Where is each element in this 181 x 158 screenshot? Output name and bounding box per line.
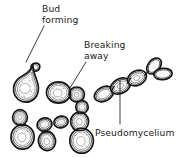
- cell-group-breaking-away-pair: [47, 82, 85, 103]
- cell-group-small-cluster-center: [35, 115, 69, 152]
- cell-granule: [75, 135, 76, 136]
- cell-granule: [16, 131, 17, 132]
- small-daughter-nucleus: [18, 115, 22, 120]
- cell-granule: [24, 96, 25, 97]
- label-breaking-away-line2: away: [84, 50, 109, 61]
- cell-granule: [61, 97, 62, 98]
- cell-group-triple-chain-center: [70, 101, 94, 154]
- cell-granule: [63, 88, 64, 89]
- large-mother-nucleus: [18, 133, 26, 142]
- label-bud-forming-line1: Bud: [42, 3, 60, 14]
- label-pseudomycelium: Pseudomycelium: [95, 127, 174, 138]
- label-pseudomycelium-line1: Pseudomycelium: [95, 127, 174, 138]
- label-breaking-away-line1: Breaking: [84, 39, 126, 50]
- yeast-budding-diagram: Bud forming Breaking away Pseudomycelium: [0, 0, 181, 158]
- cell-granule: [27, 143, 28, 144]
- cell-granule: [19, 91, 20, 92]
- cell-granule: [31, 91, 32, 92]
- cell-granule: [53, 88, 54, 89]
- breaking-away-mother-nucleus: [53, 89, 62, 97]
- label-bud-forming-line2: forming: [42, 14, 78, 25]
- cell-granule: [27, 131, 28, 132]
- cell-granule: [86, 135, 87, 136]
- diagram-canvas: Bud forming Breaking away Pseudomycelium: [0, 0, 181, 158]
- cell-group-vertical-pair-left: [11, 110, 34, 150]
- detaching-daughter-nucleus: [74, 93, 79, 98]
- cell-granule: [29, 80, 30, 81]
- small-cell: [53, 115, 70, 130]
- cell-granule: [21, 82, 22, 83]
- leader-line-breaking-away: [70, 62, 86, 88]
- chain-bottom-cell-nucleus: [77, 137, 85, 146]
- label-breaking-away: Breaking away: [84, 39, 126, 61]
- small-cell: [37, 130, 57, 152]
- mother-cell-nucleus: [20, 84, 30, 94]
- chain-top-cell-cytoplasm: [79, 104, 85, 111]
- label-bud-forming: Bud forming: [42, 3, 78, 25]
- cell-granule: [86, 147, 87, 148]
- chain-middle-cell-nucleus: [76, 119, 82, 125]
- leader-line-bud-forming: [26, 26, 44, 62]
- cell-group-budding-mother-cell: [14, 63, 40, 102]
- cell-granule: [52, 97, 53, 98]
- cell-group-pseudomycelium-chain: [92, 55, 173, 105]
- small-cell: [35, 116, 53, 133]
